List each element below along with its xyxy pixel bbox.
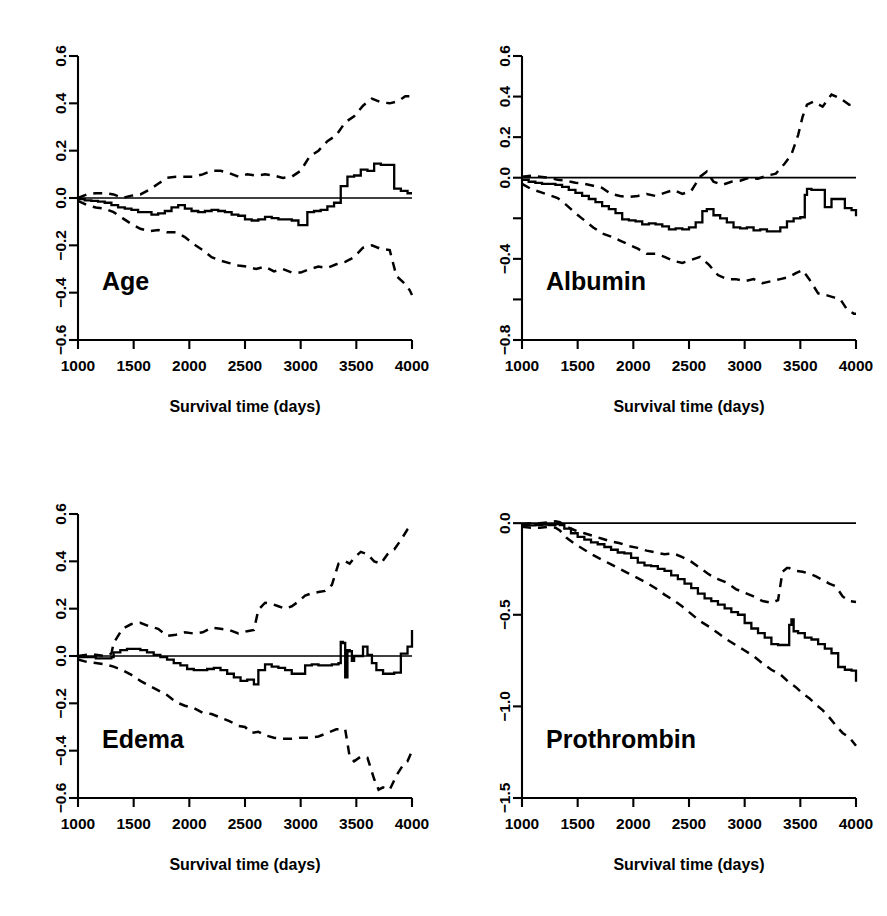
chart-edema: −0.6−0.4−0.20.00.20.40.61000150020002500… (0, 458, 443, 916)
y-tick-label: 0.4 (52, 550, 69, 572)
y-tick-label: −0.6 (52, 324, 69, 355)
x-tick-label: 1000 (505, 357, 539, 374)
x-tick-label: 1000 (61, 815, 95, 832)
y-tick-label: 0.0 (52, 187, 69, 209)
y-tick-label: −0.4 (52, 735, 69, 766)
x-tick-label: 1000 (505, 815, 539, 832)
x-axis-title: Survival time (days) (169, 856, 320, 873)
x-tick-label: 4000 (839, 815, 873, 832)
y-tick-label: 0.0 (496, 512, 513, 534)
chart-age: −0.6−0.4−0.20.00.20.40.61000150020002500… (0, 0, 443, 458)
y-tick-label: −0.2 (52, 688, 69, 719)
x-tick-label: 3000 (283, 357, 317, 374)
series-upper-ci (522, 95, 856, 197)
chart-albumin: −0.8−0.40.00.20.40.610001500200025003000… (444, 0, 887, 458)
y-tick-label: 0.2 (52, 598, 69, 620)
series-estimate (522, 180, 856, 232)
y-tick-label: −0.2 (52, 230, 69, 261)
series-estimate (78, 630, 412, 684)
x-tick-label: 1500 (116, 815, 150, 832)
panel-label: Albumin (546, 267, 646, 295)
x-axis-title: Survival time (days) (169, 398, 320, 415)
y-tick-label: −1.0 (496, 691, 513, 722)
x-tick-label: 1500 (560, 815, 594, 832)
x-tick-label: 4000 (839, 357, 873, 374)
y-tick-label: 0.2 (52, 140, 69, 162)
y-tick-label: −0.6 (52, 782, 69, 813)
y-tick-label: 0.0 (496, 167, 513, 189)
x-tick-label: 3500 (783, 357, 817, 374)
y-tick-label: −1.5 (496, 782, 513, 813)
x-tick-label: 1000 (61, 357, 95, 374)
series-upper-ci (78, 96, 412, 198)
panel-edema: −0.6−0.4−0.20.00.20.40.61000150020002500… (0, 458, 443, 916)
x-tick-label: 1500 (116, 357, 150, 374)
x-tick-label: 3000 (727, 357, 761, 374)
panel-label: Age (102, 267, 149, 295)
panel-albumin: −0.8−0.40.00.20.40.610001500200025003000… (444, 0, 887, 458)
panel-prothrombin: −1.5−1.0−0.50.01000150020002500300035004… (444, 458, 887, 916)
x-tick-label: 2000 (172, 815, 206, 832)
y-tick-label: −0.5 (496, 599, 513, 630)
x-tick-label: 3000 (727, 815, 761, 832)
chart-prothrombin: −1.5−1.0−0.50.01000150020002500300035004… (444, 458, 887, 916)
y-tick-label: −0.4 (496, 243, 513, 274)
series-estimate (78, 164, 412, 226)
x-tick-label: 4000 (395, 815, 429, 832)
x-tick-label: 2500 (228, 357, 262, 374)
x-axis-title: Survival time (days) (613, 398, 764, 415)
y-tick-label: 0.4 (496, 85, 513, 107)
x-tick-label: 2000 (172, 357, 206, 374)
y-tick-label: 0.2 (496, 126, 513, 148)
x-axis-title: Survival time (days) (613, 856, 764, 873)
panel-label: Prothrombin (546, 725, 696, 753)
y-tick-label: 0.6 (52, 45, 69, 67)
y-tick-label: 0.6 (52, 503, 69, 525)
x-tick-label: 3000 (283, 815, 317, 832)
y-tick-label: 0.6 (496, 45, 513, 67)
x-tick-label: 2000 (616, 357, 650, 374)
panel-label: Edema (102, 725, 185, 753)
y-tick-label: 0.0 (52, 645, 69, 667)
x-tick-label: 2500 (672, 357, 706, 374)
x-tick-label: 4000 (395, 357, 429, 374)
x-tick-label: 2500 (228, 815, 262, 832)
x-tick-label: 2500 (672, 815, 706, 832)
x-tick-label: 2000 (616, 815, 650, 832)
series-estimate (522, 524, 856, 682)
panel-age: −0.6−0.4−0.20.00.20.40.61000150020002500… (0, 0, 443, 458)
x-tick-label: 3500 (783, 815, 817, 832)
y-tick-label: −0.4 (52, 277, 69, 308)
multi-panel-figure: −0.6−0.4−0.20.00.20.40.61000150020002500… (0, 0, 887, 916)
x-tick-label: 1500 (560, 357, 594, 374)
y-tick-label: −0.8 (496, 324, 513, 355)
y-tick-label: 0.4 (52, 92, 69, 114)
x-tick-label: 3500 (339, 815, 373, 832)
x-tick-label: 3500 (339, 357, 373, 374)
series-upper-ci (78, 525, 412, 656)
